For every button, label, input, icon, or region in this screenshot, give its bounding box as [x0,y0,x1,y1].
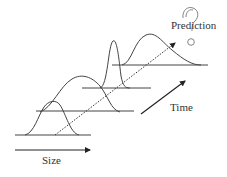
time-axis-label: Time [170,102,193,113]
distribution-curves [25,34,201,135]
size-axis-label: Size [42,155,61,166]
baselines [15,65,208,135]
curve-t3 [100,41,130,88]
prediction-label: Prediction [171,20,216,31]
trend-arrow [55,43,175,135]
curve-t1 [25,101,79,135]
